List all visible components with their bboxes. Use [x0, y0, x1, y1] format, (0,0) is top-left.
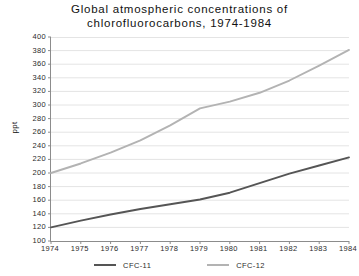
chart-title: Global atmospheric concentrations of chl…	[0, 2, 359, 30]
y-axis-tick: 360	[20, 60, 46, 68]
y-axis-tick: 400	[20, 33, 46, 41]
y-axis-tick: 120	[20, 223, 46, 231]
y-axis-tick: 160	[20, 196, 46, 204]
series-line-cfc-12	[51, 50, 349, 173]
y-axis-tick: 180	[20, 183, 46, 191]
y-axis-tick: 340	[20, 74, 46, 82]
legend-item-cfc-12[interactable]: CFC-12	[207, 261, 265, 270]
y-axis-tick: 380	[20, 47, 46, 55]
chart-legend: CFC-11CFC-12	[0, 258, 359, 272]
y-axis-tick: 140	[20, 210, 46, 218]
legend-label: CFC-12	[236, 261, 265, 270]
series-line-cfc-11	[51, 157, 349, 227]
y-axis-tick: 280	[20, 115, 46, 123]
legend-item-cfc-11[interactable]: CFC-11	[94, 261, 151, 270]
y-axis-tick: 200	[20, 169, 46, 177]
y-axis-tick: 240	[20, 142, 46, 150]
x-axis-tick: 1984	[328, 244, 359, 253]
y-axis-tick: 260	[20, 128, 46, 136]
legend-label: CFC-11	[123, 261, 151, 270]
x-axis-tick-labels: 1974197519761977197819791980198119821983…	[50, 244, 348, 256]
y-axis-tick: 320	[20, 87, 46, 95]
legend-swatch-cfc-12	[207, 264, 229, 266]
legend-swatch-cfc-11	[94, 264, 116, 266]
chart-figure: Global atmospheric concentrations of chl…	[0, 0, 359, 276]
plot-area	[50, 37, 349, 242]
y-axis-tick: 220	[20, 155, 46, 163]
y-axis-tick: 300	[20, 101, 46, 109]
y-axis-tick-labels: 4003803603403203002802602402202001801601…	[16, 37, 46, 241]
data-series-layer	[51, 37, 349, 241]
